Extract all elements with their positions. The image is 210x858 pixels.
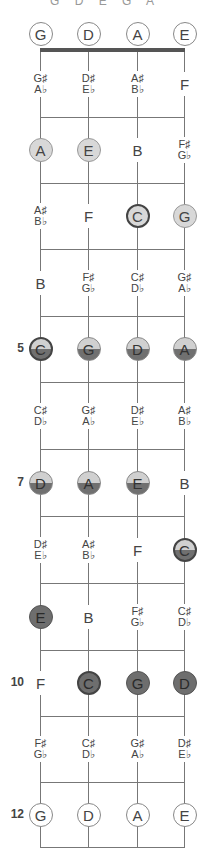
fret-line (40, 716, 185, 717)
note-0-a: A (126, 22, 150, 46)
fret-line (40, 847, 185, 848)
note-6-a: D♯E♭ (126, 403, 150, 429)
note-5-g: C (29, 337, 53, 361)
note-2-d: E (77, 138, 101, 162)
note-4-e: G♯A♭ (173, 270, 197, 296)
note-6-e: A♯B♭ (173, 403, 197, 429)
flat-name: D♭ (82, 749, 95, 760)
flat-name: G♭ (82, 283, 96, 294)
note-0-d: D (77, 22, 101, 46)
fret-line (40, 449, 185, 450)
fretboard-diagram: G D E G A GDAEG♯A♭D♯E♭A♯B♭FAEBF♯G♭A♯B♭FC… (0, 0, 210, 858)
note-10-e: D (173, 671, 197, 695)
note-5-d: G (77, 337, 101, 361)
note-4-g: B (29, 271, 53, 295)
fret-number-label: 12 (10, 807, 24, 821)
note-1-e: F (173, 72, 197, 96)
fret-line (40, 650, 185, 651)
note-9-a: F♯G♭ (126, 604, 150, 630)
flat-name: D♭ (131, 283, 144, 294)
note-2-a: B (126, 138, 150, 162)
note-1-g: G♯A♭ (29, 71, 53, 97)
fret-number-label: 10 (10, 675, 24, 689)
note-12-e: E (173, 803, 197, 827)
fret-line (40, 782, 185, 783)
note-10-d: C (77, 671, 101, 695)
note-7-e: B (173, 471, 197, 495)
flat-name: E♭ (82, 84, 94, 95)
note-12-d: D (77, 803, 101, 827)
flat-name: B♭ (131, 84, 143, 95)
note-1-a: A♯B♭ (126, 71, 150, 97)
flat-name: A♭ (82, 416, 94, 427)
note-12-a: A (126, 803, 150, 827)
flat-name: A♭ (131, 749, 143, 760)
flat-name: G♭ (131, 617, 145, 628)
note-7-a: E (126, 471, 150, 495)
flat-name: B♭ (82, 550, 94, 561)
note-3-d: F (77, 204, 101, 228)
note-3-e: G (173, 204, 197, 228)
fret-line (40, 382, 185, 383)
fret-line (40, 183, 185, 184)
note-9-e: C♯D♭ (173, 604, 197, 630)
flat-name: D♭ (34, 416, 47, 427)
note-8-a: F (126, 538, 150, 562)
note-7-g: D (29, 471, 53, 495)
note-5-e: A (173, 337, 197, 361)
note-8-e: C (173, 538, 197, 562)
note-10-a: G (126, 671, 150, 695)
fret-line (40, 117, 185, 118)
fret-number-label: 7 (10, 475, 24, 489)
note-5-a: D (126, 337, 150, 361)
note-0-g: G (29, 22, 53, 46)
note-6-d: G♯A♭ (77, 403, 101, 429)
note-3-g: A♯B♭ (29, 203, 53, 229)
note-11-g: F♯G♭ (29, 736, 53, 762)
note-8-g: D♯E♭ (29, 537, 53, 563)
note-1-d: D♯E♭ (77, 71, 101, 97)
note-6-g: C♯D♭ (29, 403, 53, 429)
note-4-a: C♯D♭ (126, 270, 150, 296)
fret-line (40, 583, 185, 584)
note-9-d: B (77, 605, 101, 629)
flat-name: G♭ (178, 150, 192, 161)
note-0-e: E (173, 22, 197, 46)
flat-name: D♭ (178, 617, 191, 628)
note-12-g: G (29, 803, 53, 827)
note-10-g: F (29, 671, 53, 695)
note-11-e: D♯E♭ (173, 736, 197, 762)
note-11-d: C♯D♭ (77, 736, 101, 762)
note-8-d: A♯B♭ (77, 537, 101, 563)
fret-number-label: 5 (10, 341, 24, 355)
fret-line (40, 516, 185, 517)
note-2-g: A (29, 138, 53, 162)
note-2-e: F♯G♭ (173, 137, 197, 163)
flat-name: E♭ (178, 749, 190, 760)
fret-line (40, 249, 185, 250)
flat-name: B♭ (178, 416, 190, 427)
note-9-g: E (29, 605, 53, 629)
nut (40, 48, 185, 52)
note-4-d: F♯G♭ (77, 270, 101, 296)
flat-name: A♭ (34, 84, 46, 95)
fret-line (40, 316, 185, 317)
note-7-d: A (77, 471, 101, 495)
diagram-title: G D E G A (0, 0, 210, 8)
flat-name: G♭ (34, 749, 48, 760)
note-3-a: C (126, 204, 150, 228)
note-11-a: G♯A♭ (126, 736, 150, 762)
flat-name: B♭ (34, 216, 46, 227)
flat-name: A♭ (178, 283, 190, 294)
flat-name: E♭ (131, 416, 143, 427)
flat-name: E♭ (34, 550, 46, 561)
